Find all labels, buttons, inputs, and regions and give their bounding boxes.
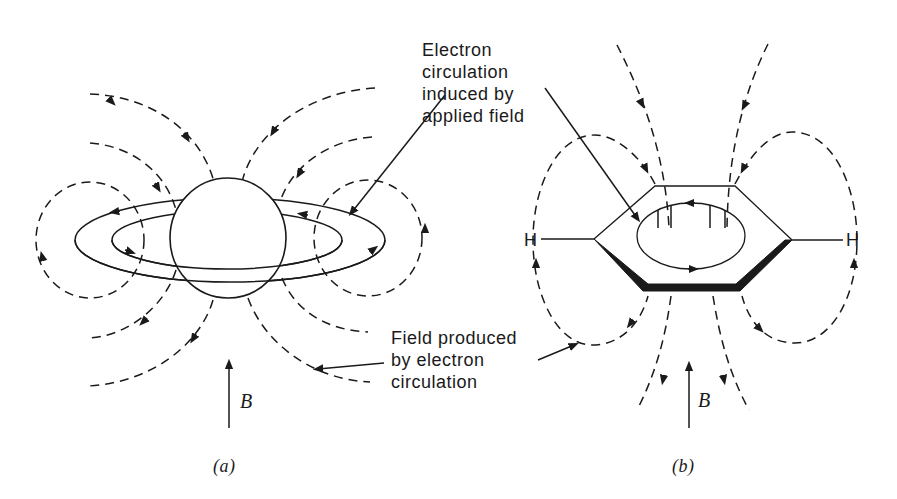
caption-b-text: (b) — [672, 456, 695, 476]
panel-a — [36, 88, 445, 428]
field-line-a-top-left-inner — [90, 143, 176, 210]
field-line-a-bottom-right-inner — [282, 278, 368, 332]
caption-a-text: (a) — [213, 456, 236, 476]
atom-label-h-right: H — [846, 229, 860, 251]
field-loop-b-right — [735, 132, 857, 343]
atom-label-h-left: H — [524, 229, 538, 251]
field-label-b: B — [698, 389, 711, 411]
field-line-b-top-right — [727, 44, 768, 228]
field-loop-a-left — [36, 182, 144, 298]
field-line-a-bottom-left-inner — [90, 270, 176, 338]
benzene-ring — [594, 186, 792, 240]
caption-b: (b) — [672, 455, 695, 477]
field-line-a-top-right-outer — [242, 88, 375, 182]
field-line-a-top-right-inner — [280, 137, 372, 202]
field-line-a-bottom-right-outer — [248, 298, 370, 382]
annotation-ring-current-line-1: Electron — [422, 39, 525, 61]
annotation-induced-field-line-2: by electron — [391, 349, 517, 371]
annotation-ring-current-line-3: induced by — [422, 83, 525, 105]
annotation-ring-current-line-4: applied field — [422, 105, 525, 127]
field-label-a: B — [240, 390, 253, 412]
panel-b — [533, 44, 857, 428]
caption-a: (a) — [213, 455, 236, 477]
annotation-induced-field-line-3: circulation — [391, 371, 517, 393]
annotation-induced-field: Field produced by electron circulation — [391, 327, 517, 393]
field-loop-a-right — [314, 180, 422, 296]
annotation-induced-field-line-1: Field produced — [391, 327, 517, 349]
leader-induced-field-a — [318, 363, 384, 369]
field-line-a-bottom-left-outer — [88, 300, 213, 386]
field-line-b-bottom-right — [713, 296, 749, 410]
benzene-ring-front-edge — [594, 239, 792, 291]
leader-induced-field-b — [538, 345, 574, 360]
annotation-ring-current: Electron circulation induced by applied … — [422, 39, 525, 127]
ring-current-b — [637, 203, 745, 269]
annotation-ring-current-line-2: circulation — [422, 61, 525, 83]
